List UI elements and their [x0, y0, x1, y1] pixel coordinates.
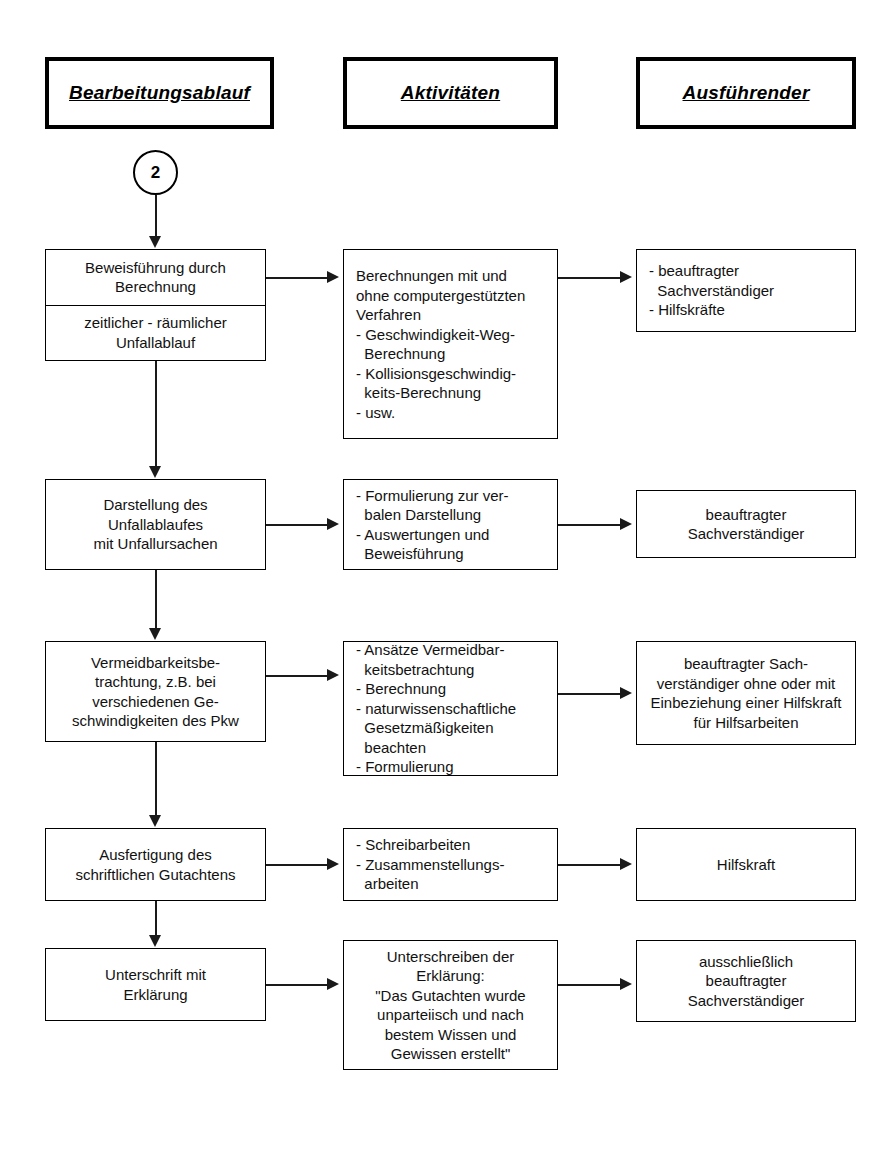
text-line: arbeiten [356, 874, 551, 894]
process-box-row4: Ausfertigung des schriftlichen Gutachten… [45, 828, 266, 901]
text-line: verständiger ohne oder mit [649, 674, 843, 694]
text-line: - usw. [356, 403, 551, 423]
text-line: - naturwissenschaftliche [356, 699, 551, 719]
text-line: beauftragter Sach- [676, 654, 816, 674]
text-line: Erklärung [115, 985, 195, 1005]
text-line: - Hilfskräfte [649, 300, 849, 320]
process-box-row1: Beweisführung durch Berechnung zeitliche… [45, 249, 266, 361]
arrowhead-row1-performer [620, 271, 632, 283]
connector-line-row4-activity-to-performer [558, 864, 620, 866]
connector-line-row3-process-to-activity [266, 675, 327, 677]
arrowhead-row4-activity [327, 858, 339, 870]
activity-box-row1: Berechnungen mit und ohne computergestüt… [343, 249, 558, 439]
connector-circle-2: 2 [133, 150, 178, 195]
arrowhead-row1-activity [327, 271, 339, 283]
text-line: - Berechnung [356, 679, 551, 699]
arrowhead-row5-performer [620, 978, 632, 990]
text-line: "Das Gutachten wurde [367, 986, 533, 1006]
arrowhead-row2-activity [327, 518, 339, 530]
text-line: Beweisführung durch [77, 258, 234, 278]
text-line: Hilfskraft [709, 855, 783, 875]
text-line: mit Unfallursachen [85, 534, 225, 554]
process-box-row2: Darstellung des Unfallablaufes mit Unfal… [45, 479, 266, 570]
connector-line-row5-activity-to-performer [558, 984, 620, 986]
arrowhead-row2-performer [620, 518, 632, 530]
arrowhead-row3-to-row4 [149, 815, 161, 827]
text-line: Ausfertigung des [91, 845, 220, 865]
text-line: Gesetzmäßigkeiten [356, 718, 551, 738]
arrowhead-row4-performer [620, 858, 632, 870]
text-line: Vermeidbarkeitsbe- [83, 653, 228, 673]
process-box-row5: Unterschrift mit Erklärung [45, 948, 266, 1021]
text-line: zeitlicher - räumlicher [76, 313, 235, 333]
text-line: Beweisführung [356, 544, 551, 564]
text-line: - Schreibarbeiten [356, 835, 551, 855]
arrowhead-row3-performer [620, 687, 632, 699]
activity-box-row3-lines: - Ansätze Vermeidbar- keitsbetrachtung -… [344, 640, 557, 777]
connector-line-row1-process-to-activity [266, 277, 327, 279]
performer-box-row1-lines: - beauftragter Sachverständiger - Hilfsk… [637, 261, 855, 320]
text-line: Sachverständiger [649, 281, 849, 301]
activity-box-row2: - Formulierung zur ver- balen Darstellun… [343, 479, 558, 570]
arrowhead-row4-to-row5 [149, 935, 161, 947]
text-line: Berechnungen mit und [356, 266, 551, 286]
text-line: ausschließlich [691, 952, 801, 972]
connector-line-row1-activity-to-performer [558, 277, 620, 279]
connector-line-row1-to-row2 [155, 361, 157, 469]
text-line: ohne computergestützten [356, 286, 551, 306]
activity-box-row2-lines: - Formulierung zur ver- balen Darstellun… [344, 486, 557, 564]
header-box-ausfuehrender: Ausführender [636, 57, 856, 129]
header-box-aktivitaeten: Aktivitäten [343, 57, 558, 129]
header-label-ausfuehrender: Ausführender [683, 82, 810, 104]
text-line: Unfallablaufes [100, 515, 211, 535]
header-box-bearbeitungsablauf: Bearbeitungsablauf [45, 57, 274, 129]
text-line: keitsbetrachtung [356, 660, 551, 680]
connector-line-row3-activity-to-performer [558, 693, 620, 695]
text-line: - Geschwindigkeit-Weg- [356, 325, 551, 345]
process-box-row1-lower: zeitlicher - räumlicher Unfallablauf [46, 305, 265, 361]
header-label-aktivitaeten: Aktivitäten [401, 82, 500, 104]
connector-line-row4-to-row5 [155, 901, 157, 938]
text-line: keits-Berechnung [356, 383, 551, 403]
text-line: balen Darstellung [356, 505, 551, 525]
text-line: unparteiisch und nach [369, 1005, 532, 1025]
connector-line-row5-process-to-activity [266, 984, 327, 986]
performer-box-row3: beauftragter Sach- verständiger ohne ode… [636, 641, 856, 745]
arrowhead-row3-activity [327, 669, 339, 681]
activity-box-row1-lines: Berechnungen mit und ohne computergestüt… [344, 266, 557, 422]
text-line: trachtung, z.B. bei [87, 672, 224, 692]
connector-line-row2-activity-to-performer [558, 524, 620, 526]
text-line: Unfallablauf [108, 333, 203, 353]
arrowhead-entry-to-row1 [149, 236, 161, 248]
text-line: Berechnung [356, 344, 551, 364]
process-box-row3: Vermeidbarkeitsbe- trachtung, z.B. bei v… [45, 641, 266, 742]
process-box-row1-upper: Beweisführung durch Berechnung [46, 250, 265, 305]
header-label-bearbeitungsablauf: Bearbeitungsablauf [69, 82, 250, 104]
connector-line-row3-to-row4 [155, 742, 157, 818]
connector-line-entry [155, 195, 157, 239]
text-line: - Ansätze Vermeidbar- [356, 640, 551, 660]
activity-box-row5: Unterschreiben der Erklärung: "Das Gutac… [343, 940, 558, 1070]
arrowhead-row5-activity [327, 978, 339, 990]
text-line: bestem Wissen und [377, 1025, 525, 1045]
connector-line-row2-process-to-activity [266, 524, 327, 526]
activity-box-row3: - Ansätze Vermeidbar- keitsbetrachtung -… [343, 641, 558, 776]
text-line: Einbeziehung einer Hilfskraft [643, 693, 850, 713]
text-line: beauftragter [698, 971, 795, 991]
arrowhead-row1-to-row2 [149, 466, 161, 478]
text-line: Unterschreiben der [379, 947, 523, 967]
activity-box-row4: - Schreibarbeiten - Zusammenstellungs- a… [343, 828, 558, 901]
text-line: Sachverständiger [680, 991, 813, 1011]
activity-box-row4-lines: - Schreibarbeiten - Zusammenstellungs- a… [344, 835, 557, 894]
performer-box-row4: Hilfskraft [636, 828, 856, 901]
performer-box-row1: - beauftragter Sachverständiger - Hilfsk… [636, 249, 856, 332]
text-line: - Auswertungen und [356, 525, 551, 545]
text-line: - Zusammenstellungs- [356, 855, 551, 875]
text-line: Sachverständiger [680, 524, 813, 544]
connector-line-row4-process-to-activity [266, 864, 327, 866]
text-line: Verfahren [356, 305, 551, 325]
text-line: Berechnung [107, 277, 204, 297]
text-line: schwindigkeiten des Pkw [64, 711, 247, 731]
text-line: schriftlichen Gutachtens [67, 865, 243, 885]
arrowhead-row2-to-row3 [149, 628, 161, 640]
